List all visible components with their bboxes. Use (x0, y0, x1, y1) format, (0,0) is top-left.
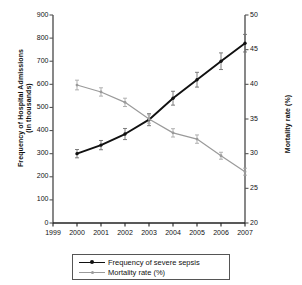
right-tick-label-35: 35 (250, 115, 276, 122)
left-tick-label-400: 400 (23, 126, 49, 133)
legend-line-icon-mortality (79, 268, 105, 277)
left-tick-label-0: 0 (23, 219, 49, 226)
left-tick-label-600: 600 (23, 80, 49, 87)
right-tick-label-30: 30 (250, 149, 276, 156)
legend-item-mortality: Mortality rate (%) (73, 267, 229, 277)
legend-label-mortality: Mortality rate (%) (108, 268, 165, 277)
left-tick-label-100: 100 (23, 195, 49, 202)
right-tick-label-25: 25 (250, 184, 276, 191)
data-point-1-2005 (196, 138, 199, 141)
legend-label-frequency: Frequency of severe sepsis (108, 258, 200, 267)
x-tick-label-2000: 2000 (64, 229, 90, 236)
data-point-0-2004 (171, 97, 174, 100)
x-tick-label-2002: 2002 (112, 229, 138, 236)
data-point-1-2003 (148, 118, 151, 121)
x-tick-label-2003: 2003 (136, 229, 162, 236)
series-line-1 (77, 85, 245, 172)
data-point-1-2001 (100, 91, 103, 94)
left-tick-label-200: 200 (23, 172, 49, 179)
data-point-0-2006 (219, 60, 222, 63)
data-point-0-2005 (195, 78, 198, 81)
legend-line-icon-frequency (79, 258, 105, 267)
x-tick-label-2007: 2007 (232, 229, 258, 236)
right-tick-label-50: 50 (250, 11, 276, 18)
data-point-1-2006 (220, 154, 223, 157)
left-tick-label-900: 900 (23, 11, 49, 18)
right-axis-title: Mortality rate (%) (284, 64, 292, 184)
data-point-0-2001 (99, 143, 102, 146)
right-tick-label-45: 45 (250, 45, 276, 52)
data-point-1-2007 (244, 170, 247, 173)
right-tick-label-40: 40 (250, 80, 276, 87)
x-tick-label-2001: 2001 (88, 229, 114, 236)
left-tick-label-800: 800 (23, 34, 49, 41)
x-tick-label-2006: 2006 (208, 229, 234, 236)
x-tick-label-2005: 2005 (184, 229, 210, 236)
x-tick-label-1999: 1999 (40, 229, 66, 236)
data-point-0-2002 (123, 132, 126, 135)
plot-area (0, 0, 302, 285)
chart-legend: Frequency of severe sepsis Mortality rat… (72, 254, 230, 280)
legend-item-frequency: Frequency of severe sepsis (73, 257, 229, 267)
data-point-1-2004 (172, 131, 175, 134)
data-point-1-2002 (124, 101, 127, 104)
left-tick-label-700: 700 (23, 57, 49, 64)
data-point-0-2000 (75, 152, 78, 155)
right-tick-label-20: 20 (250, 219, 276, 226)
x-tick-label-2004: 2004 (160, 229, 186, 236)
left-tick-label-300: 300 (23, 149, 49, 156)
left-tick-label-500: 500 (23, 103, 49, 110)
chart-figure: Frequency of Hospital Admissions (in tho… (0, 0, 302, 285)
series-line-0 (77, 43, 245, 153)
data-point-1-2000 (76, 84, 79, 87)
data-point-0-2007 (243, 42, 246, 45)
